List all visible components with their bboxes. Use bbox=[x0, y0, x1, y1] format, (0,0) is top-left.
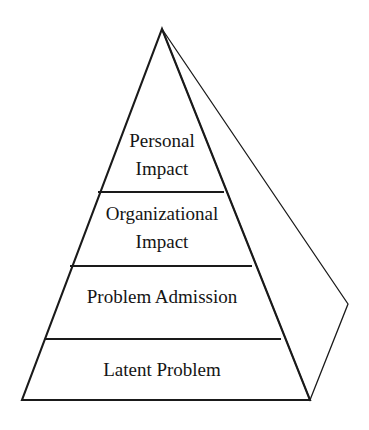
tier-3-label-line-1: Problem Admission bbox=[87, 286, 238, 307]
pyramid-svg-canvas: Personal Impact Organizational Impact Pr… bbox=[0, 0, 369, 430]
pyramid-diagram: Personal Impact Organizational Impact Pr… bbox=[0, 0, 369, 430]
tier-4-label-line-1: Latent Problem bbox=[103, 359, 221, 380]
tier-2-label-line-1: Organizational bbox=[106, 203, 219, 224]
pyramid-tier-organizational-impact[interactable]: Organizational Impact bbox=[106, 203, 219, 252]
tier-1-label-line-1: Personal bbox=[129, 130, 194, 151]
pyramid-tier-personal-impact[interactable]: Personal Impact bbox=[129, 130, 194, 179]
pyramid-tier-problem-admission[interactable]: Problem Admission bbox=[87, 286, 238, 307]
tier-1-label-line-2: Impact bbox=[136, 158, 189, 179]
pyramid-tier-latent-problem[interactable]: Latent Problem bbox=[103, 359, 221, 380]
tier-2-label-line-2: Impact bbox=[136, 231, 189, 252]
